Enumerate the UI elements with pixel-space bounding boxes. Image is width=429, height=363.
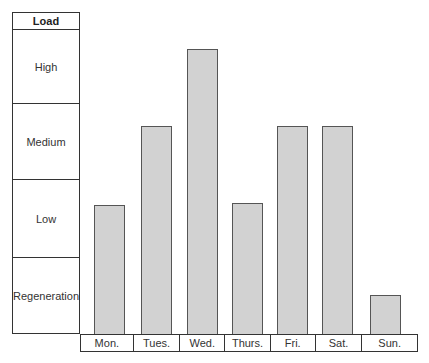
day-label: Sat. <box>316 335 363 351</box>
bar-fri <box>277 126 308 335</box>
day-label: Wed. <box>180 335 225 351</box>
bar-tues <box>141 126 172 335</box>
band-high: High <box>13 30 79 104</box>
bar-thurs <box>232 203 263 335</box>
band-label: Regeneration <box>13 290 79 302</box>
bar-wed <box>187 49 218 335</box>
day-labels-row: Mon.Tues.Wed.Thurs.Fri.Sat.Sun. <box>80 334 418 352</box>
band-low: Low <box>13 180 79 258</box>
band-medium: Medium <box>13 104 79 180</box>
bar-sun <box>370 295 401 335</box>
band-label: Low <box>36 213 56 225</box>
load-scale: Load High Medium Low Regeneration <box>12 12 80 334</box>
load-scale-header: Load <box>13 13 79 30</box>
band-label: High <box>35 61 58 73</box>
day-label: Mon. <box>81 335 134 351</box>
bar-sat <box>322 126 353 335</box>
band-regeneration: Regeneration <box>13 258 79 334</box>
band-label: Medium <box>26 136 65 148</box>
day-label: Thurs. <box>225 335 271 351</box>
day-label: Fri. <box>271 335 316 351</box>
day-label: Tues. <box>134 335 181 351</box>
day-label: Sun. <box>362 335 417 351</box>
bar-mon <box>94 205 125 335</box>
